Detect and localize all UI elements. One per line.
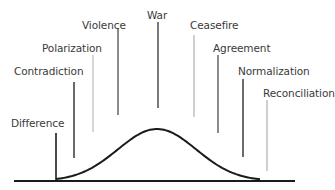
escalation-curve [56, 129, 260, 179]
stage-label-polarization: Polarization [42, 42, 102, 54]
stage-label-contradiction: Contradiction [14, 65, 83, 77]
stage-label-agreement: Agreement [213, 42, 270, 54]
stage-label-violence: Violence [82, 19, 126, 31]
stage-label-normalization: Normalization [238, 65, 310, 77]
conflict-cycle-diagram: Difference Contradiction Polarization Vi… [0, 0, 335, 190]
stage-label-difference: Difference [11, 117, 64, 129]
stage-label-reconciliation: Reconciliation [263, 87, 335, 99]
stage-label-ceasefire: Ceasefire [190, 19, 238, 31]
stage-label-war: War [147, 9, 167, 21]
